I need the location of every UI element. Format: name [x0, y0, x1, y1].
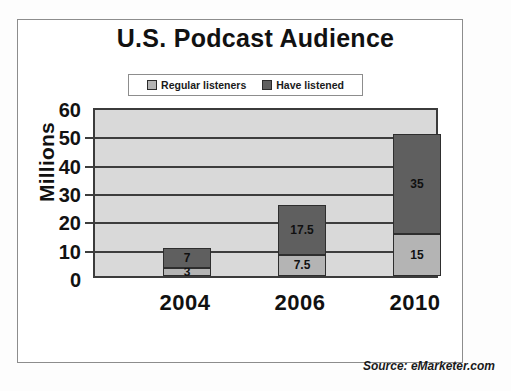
- chart-title: U.S. Podcast Audience: [0, 24, 511, 53]
- y-axis-tick: [85, 166, 96, 168]
- y-axis-tick: [85, 222, 96, 224]
- x-axis-label-2004: 2004: [130, 290, 240, 316]
- y-axis-tick-label: 20: [59, 213, 81, 233]
- plot-area: 6050403020100377.517.51535: [93, 108, 438, 278]
- y-axis-title: Millions: [35, 102, 59, 222]
- gridline: [95, 137, 436, 139]
- legend-entry-have-listened[interactable]: Have listened: [262, 79, 344, 91]
- bar-segment-2006-regular-listeners[interactable]: 7.5: [278, 255, 326, 276]
- chart-legend: Regular listeners Have listened: [128, 74, 363, 96]
- source-note: Source: eMarketer.com: [363, 359, 495, 373]
- bar-segment-2004-regular-listeners[interactable]: 3: [163, 268, 211, 277]
- y-axis-tick-label: 30: [59, 185, 81, 205]
- legend-label-have-listened: Have listened: [276, 79, 344, 91]
- bar-segment-2006-have-listened[interactable]: 17.5: [278, 205, 326, 255]
- bar-value-label: 35: [410, 178, 423, 190]
- gridline: [95, 222, 436, 224]
- legend-swatch-icon-regular-listeners: [147, 80, 157, 90]
- bar-value-label: 15: [410, 249, 423, 261]
- y-axis-tick: [85, 251, 96, 253]
- chart-figure: U.S. Podcast Audience Regular listeners …: [0, 0, 511, 391]
- legend-swatch-icon-have-listened: [262, 80, 272, 90]
- legend-entry-regular-listeners[interactable]: Regular listeners: [147, 79, 246, 91]
- bar-value-label: 3: [184, 266, 191, 278]
- bar-segment-2004-have-listened[interactable]: 7: [163, 248, 211, 268]
- x-axis-label-2006: 2006: [245, 290, 355, 316]
- gridline: [95, 194, 436, 196]
- y-axis-tick: [85, 137, 96, 139]
- x-axis-label-2010: 2010: [360, 290, 470, 316]
- y-axis-tick-label: 60: [59, 100, 81, 120]
- bar-value-label: 7.5: [294, 259, 311, 271]
- bar-value-label: 17.5: [290, 224, 313, 236]
- bar-segment-2010-have-listened[interactable]: 35: [393, 134, 441, 233]
- bar-value-label: 7: [184, 252, 191, 264]
- gridline: [95, 166, 436, 168]
- bar-segment-2010-regular-listeners[interactable]: 15: [393, 234, 441, 277]
- y-axis-tick-label: 40: [59, 157, 81, 177]
- y-axis-tick: [85, 194, 96, 196]
- legend-label-regular-listeners: Regular listeners: [161, 79, 246, 91]
- gridline: [95, 251, 436, 253]
- y-axis-tick-label: 0: [70, 270, 81, 290]
- plot-inner: 6050403020100377.517.51535: [95, 110, 436, 276]
- y-axis-tick-label: 10: [59, 242, 81, 262]
- y-axis-tick-label: 50: [59, 128, 81, 148]
